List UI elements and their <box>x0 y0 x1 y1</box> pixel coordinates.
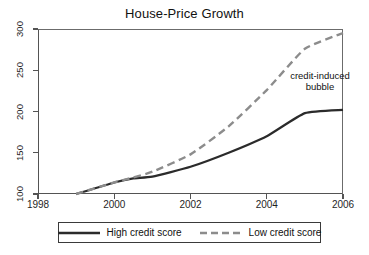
legend-label-low-credit-score: Low credit score <box>249 227 322 238</box>
y-tick-label: 250 <box>15 62 25 78</box>
y-tick-mark <box>33 152 38 153</box>
legend-swatch-dashed <box>200 228 242 238</box>
y-tick-mark <box>33 111 38 112</box>
legend-label-high-credit-score: High credit score <box>107 227 182 238</box>
plot-frame-right-border <box>342 29 343 195</box>
x-tick-label: 2006 <box>332 199 354 210</box>
x-tick-label: 2004 <box>256 199 278 210</box>
legend-entry-high-credit-score: High credit score <box>58 227 182 238</box>
legend-swatch-solid <box>58 228 100 238</box>
plot-frame-top-border <box>38 29 343 30</box>
y-tick-label: 300 <box>15 21 25 37</box>
annotation-line-2: bubble <box>275 81 365 92</box>
chart-title: House-Price Growth <box>0 6 369 21</box>
chart-figure: House-Price Growth 100150200250300 19982… <box>0 0 369 255</box>
y-tick-mark <box>33 70 38 71</box>
y-tick-label: 200 <box>15 104 25 120</box>
y-tick-mark <box>33 28 38 29</box>
annotation-credit-induced-bubble: credit-induced bubble <box>275 70 365 92</box>
plot-area-frame <box>38 29 343 194</box>
x-tick-label: 2000 <box>103 199 125 210</box>
x-tick-label: 1998 <box>27 199 49 210</box>
y-tick-label: 100 <box>15 186 25 202</box>
legend-entry-low-credit-score: Low credit score <box>200 227 322 238</box>
chart-legend: High credit score Low credit score <box>58 222 321 243</box>
x-tick-label: 2002 <box>179 199 201 210</box>
annotation-line-1: credit-induced <box>275 70 365 81</box>
y-tick-label: 150 <box>15 145 25 161</box>
